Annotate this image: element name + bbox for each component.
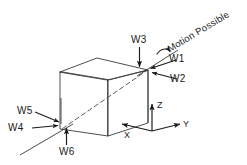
y-axis <box>152 124 180 131</box>
label-w5: W5 <box>17 106 32 116</box>
label-w4: W4 <box>8 123 23 133</box>
cube-right-face <box>108 70 148 136</box>
w5-arrow <box>35 112 59 122</box>
label-w3: W3 <box>131 35 146 45</box>
label-axis-x: X <box>124 130 130 140</box>
label-w1: W1 <box>169 54 184 64</box>
coordinate-axes <box>122 104 180 131</box>
label-w6: W6 <box>59 147 74 157</box>
label-axis-z: Z <box>157 100 163 110</box>
cube-wireframe <box>60 58 148 136</box>
cube-front-face <box>60 72 108 136</box>
label-w2: W2 <box>170 74 185 84</box>
w4-arrow <box>32 126 58 129</box>
cube-top-face <box>60 58 148 80</box>
label-axis-y: Y <box>183 119 189 129</box>
figure-canvas: W1 W2 W3 W4 W5 W6 X Y Z Motion Possible <box>0 0 247 165</box>
